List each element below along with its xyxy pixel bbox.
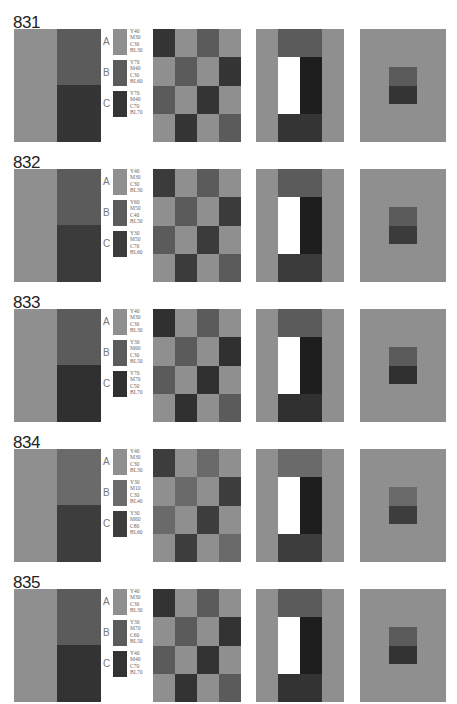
checker-cell: [197, 29, 219, 57]
panel-A-half: [14, 169, 57, 282]
checker-cell: [219, 337, 241, 365]
checker-cell: [153, 29, 175, 57]
swatch-legend-a: AY40 M30 C30 BL30: [103, 309, 153, 335]
checker-cell: [219, 254, 241, 282]
checker-cell: [175, 197, 197, 225]
checker-cell: [153, 86, 175, 114]
checker-cell: [197, 337, 219, 365]
swatch-spec: Y40 M30 C30 BL30: [130, 168, 143, 194]
combination-panel: [14, 589, 101, 702]
checker-cell: [197, 197, 219, 225]
swatch-color-box: [113, 169, 127, 195]
checker-cell: [197, 646, 219, 674]
field-B-inset: [389, 487, 417, 506]
panel-C-quarter: [57, 505, 101, 562]
checker-cell: [197, 169, 219, 197]
contrast-black-block: [300, 617, 322, 674]
checker-cell: [175, 366, 197, 394]
panel-C-quarter: [57, 645, 101, 702]
contrast-white-block: [278, 197, 300, 254]
swatch-spec: Y70 M70 C50 BL70: [130, 370, 143, 396]
checker-cell: [175, 617, 197, 645]
checker-cell: [153, 337, 175, 365]
swatch-spec: Y60 M50 C40 BL50: [130, 199, 143, 225]
checker-cell: [197, 114, 219, 142]
field-C-inset: [389, 506, 417, 524]
checker-cell: [175, 29, 197, 57]
checker-cell: [153, 254, 175, 282]
checker-cell: [219, 534, 241, 562]
checker-cell: [175, 674, 197, 702]
contrast-white-block: [278, 617, 300, 674]
swatch-letter: B: [103, 627, 111, 638]
checker-cell: [197, 394, 219, 422]
contrast-black-block: [300, 197, 322, 254]
checker-panel: [153, 169, 241, 282]
checker-cell: [219, 506, 241, 534]
field-panel: [360, 29, 446, 142]
checker-cell: [175, 114, 197, 142]
swatch-color-box: [113, 29, 127, 55]
checker-cell: [197, 589, 219, 617]
checker-cell: [175, 506, 197, 534]
checker-cell: [153, 646, 175, 674]
checker-cell: [219, 114, 241, 142]
swatch-color-box: [113, 200, 127, 226]
swatch-spec: Y40 M30 C30 BL30: [130, 448, 143, 474]
field-B-inset: [389, 207, 417, 226]
contrast-bottom-block: [278, 674, 322, 702]
checker-cell: [153, 169, 175, 197]
swatch-spec: Y30 M60 C30 BL50: [130, 339, 143, 365]
swatch-letter: A: [103, 316, 111, 327]
checker-cell: [175, 254, 197, 282]
checker-cell: [175, 57, 197, 85]
contrast-white-block: [278, 477, 300, 534]
swatch-spec: Y30 M50 C70 BL60: [130, 230, 143, 256]
swatch-row: 832AY40 M30 C30 BL30BY60 M50 C40 BL50CY3…: [0, 154, 457, 294]
swatch-spec: Y30 M10 C30 BL40: [130, 479, 143, 505]
swatch-legend-c: CY30 M60 C80 BL60: [103, 511, 153, 537]
contrast-panel: [256, 169, 344, 282]
swatch-legend-c: CY40 M40 C70 BL70: [103, 651, 153, 677]
checker-cell: [197, 254, 219, 282]
checker-cell: [219, 589, 241, 617]
checker-cell: [175, 226, 197, 254]
panel-C-quarter: [57, 85, 101, 142]
field-panel: [360, 449, 446, 562]
checker-cell: [219, 29, 241, 57]
swatch-row: 831AY40 M30 C30 BL30BY70 M40 C30 BL60CY7…: [0, 14, 457, 154]
checker-cell: [197, 86, 219, 114]
swatch-spec: Y30 M70 C60 BL50: [130, 619, 143, 645]
checker-cell: [153, 394, 175, 422]
field-B-inset: [389, 67, 417, 86]
checker-cell: [175, 309, 197, 337]
checker-cell: [219, 309, 241, 337]
swatch-color-box: [113, 620, 127, 646]
contrast-panel: [256, 29, 344, 142]
swatch-letter: B: [103, 207, 111, 218]
swatch-color-box: [113, 309, 127, 335]
contrast-panel: [256, 309, 344, 422]
panel-B-quarter: [57, 29, 101, 85]
checker-cell: [219, 86, 241, 114]
checker-cell: [153, 309, 175, 337]
swatch-color-box: [113, 480, 127, 506]
combination-panel: [14, 449, 101, 562]
swatch-color-box: [113, 589, 127, 615]
panel-A-half: [14, 589, 57, 702]
panel-C-quarter: [57, 365, 101, 422]
checker-cell: [197, 534, 219, 562]
checker-cell: [197, 226, 219, 254]
checker-cell: [175, 86, 197, 114]
swatch-row: 834AY40 M30 C30 BL30BY30 M10 C30 BL40CY3…: [0, 434, 457, 574]
swatch-letter: A: [103, 36, 111, 47]
checker-cell: [153, 477, 175, 505]
swatch-color-box: [113, 91, 127, 117]
swatch-spec: Y70 M40 C30 BL60: [130, 59, 143, 85]
checker-cell: [219, 226, 241, 254]
panel-A-half: [14, 309, 57, 422]
swatch-spec: Y40 M30 C30 BL30: [130, 588, 143, 614]
combination-panel: [14, 169, 101, 282]
panel-B-quarter: [57, 449, 101, 505]
swatch-legend-c: CY70 M70 C50 BL70: [103, 371, 153, 397]
